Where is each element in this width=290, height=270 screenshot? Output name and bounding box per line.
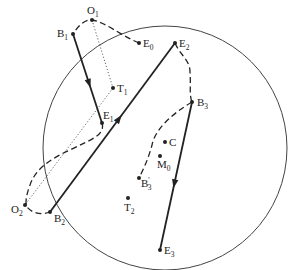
point-o1: O1 (87, 4, 99, 22)
point-dot (173, 41, 177, 45)
point-e0: E0 (137, 37, 154, 52)
point-dot (90, 18, 94, 22)
point-label: B1 (57, 27, 68, 42)
point-label: B2 (54, 212, 65, 227)
point-label: T2 (124, 201, 135, 216)
point-label: M0 (157, 158, 171, 173)
point-t1: T1 (111, 82, 128, 97)
point-t2: T2 (124, 196, 135, 216)
point-e1: E1 (100, 109, 114, 125)
point-dot (23, 203, 27, 207)
point-o2: O2 (11, 203, 27, 218)
point-dot (100, 121, 104, 125)
point-c: C (163, 136, 176, 148)
point-label: E2 (179, 37, 190, 52)
arrow-b3-e3 (160, 102, 192, 250)
point-label: B'3 (141, 176, 152, 192)
point-dot (126, 196, 130, 200)
point-dot (71, 32, 75, 36)
point-label: E0 (143, 37, 154, 52)
point-label: O2 (11, 203, 23, 218)
arrow-b2-e2 (50, 43, 175, 212)
point-dot (137, 41, 141, 45)
dashed-path-e1-o2-b2 (26, 123, 103, 214)
point-m0: M0 (157, 154, 171, 173)
point-label: E3 (164, 244, 175, 259)
point-label: O1 (87, 4, 99, 19)
point-label: E1 (103, 109, 114, 124)
point-dot (48, 210, 52, 214)
point-e2: E2 (173, 37, 190, 52)
point-label: T1 (117, 82, 128, 97)
boundary-circle-shape (43, 26, 287, 270)
point-b2: B2 (48, 210, 65, 227)
trajectory-diagram: O1B1E0T1E1E2B3CM0B'3T2O2B2E3 (0, 0, 290, 270)
arrow-b1-e1 (73, 34, 102, 123)
point-b1: B1 (57, 27, 75, 42)
point-dot (190, 100, 194, 104)
point-b3: B3 (190, 96, 208, 111)
point-dot (111, 86, 115, 90)
point-dot (163, 140, 167, 144)
dotted-line-o1-t1 (92, 20, 113, 88)
point-label: C (169, 136, 176, 148)
point-dot (158, 248, 162, 252)
boundary-circle (43, 26, 287, 270)
point-b3p: B'3 (137, 176, 152, 192)
point-label: B3 (197, 96, 208, 111)
arrowhead-icon (85, 78, 94, 89)
dotted-construction-lines (25, 20, 113, 205)
